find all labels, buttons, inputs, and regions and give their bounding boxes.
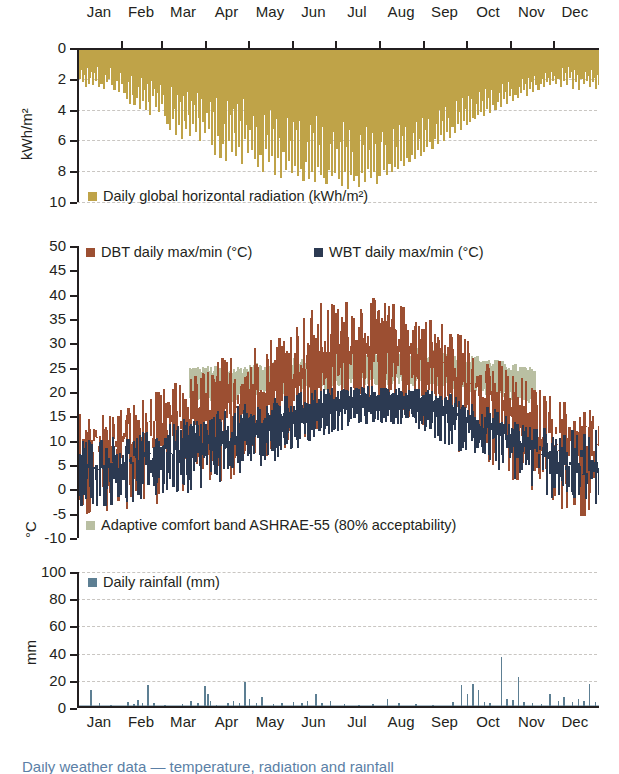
wbt-range-day [173, 424, 175, 487]
dbt-legend-label: DBT daily max/min (°C) [101, 244, 252, 260]
rainfall-bars [79, 572, 599, 706]
dbt-range-day [95, 430, 97, 437]
y-tick-label: -5 [53, 509, 66, 519]
wbt-range-day [127, 439, 129, 454]
wbt-range-day [164, 438, 166, 449]
y-tick-label: 50 [49, 241, 66, 251]
rainfall-legend-label: Daily rainfall (mm) [103, 574, 220, 590]
y-tick-mark [70, 79, 77, 81]
wbt-range-day [147, 441, 149, 485]
y-tick-label: 40 [49, 649, 66, 659]
y-tick-label: -10 [44, 533, 66, 543]
y-tick-label: 80 [49, 594, 66, 604]
y-tick-label: 35 [49, 314, 66, 324]
wbt-range-day [107, 458, 109, 467]
month-tick-aug [379, 41, 381, 48]
y-tick-mark [70, 654, 77, 656]
month-tick-nov [510, 41, 512, 48]
y-tick-label: 20 [49, 387, 66, 397]
y-tick-mark [70, 319, 77, 321]
y-tick-mark [70, 270, 77, 272]
y-tick-label: 15 [49, 411, 66, 421]
wbt-range-day [598, 468, 599, 494]
wbt-range-day [496, 412, 498, 435]
y-tick-label: 0 [58, 484, 66, 494]
y-tick-label: 5 [58, 460, 66, 470]
y-tick-mark [70, 626, 77, 628]
rainfall-legend-swatch [88, 578, 97, 587]
rainfall-legend: Daily rainfall (mm) [88, 574, 220, 590]
wbt-range-day [580, 450, 582, 458]
radiation-legend-label: Daily global horizontal radiation (kWh/m… [103, 188, 368, 204]
radiation-y-axis-label: kWh/m² [18, 108, 35, 160]
y-tick-label: 40 [49, 290, 66, 300]
y-tick-label: 10 [49, 197, 66, 207]
y-tick-label: 25 [49, 363, 66, 373]
y-tick-mark [70, 171, 77, 173]
temperature-chart: °C 50454035302520151050-5-10 DBT daily m… [0, 228, 619, 558]
y-tick-mark [70, 416, 77, 418]
rainfall-bar [589, 684, 590, 706]
wbt-range-day [573, 448, 575, 499]
month-tick-jul [335, 41, 337, 48]
rainfall-month-axis: JanFebMarAprMayJunJulAugSepOctNovDec [0, 712, 619, 734]
dbt-range-day [364, 333, 366, 379]
y-tick-label: 0 [58, 43, 66, 53]
y-tick-mark [70, 343, 77, 345]
dbt-range-day [592, 416, 594, 429]
wbt-range-day [579, 466, 581, 486]
y-tick-mark [70, 441, 77, 443]
dbt-range-day [400, 306, 402, 375]
dbt-range-day [555, 427, 557, 434]
radiation-bar [598, 50, 599, 85]
wbt-range-day [536, 429, 538, 452]
y-tick-label: 8 [58, 166, 66, 176]
y-tick-mark [70, 514, 77, 516]
wbt-range-day [563, 435, 565, 465]
temperature-legend-comfort: Adaptive comfort band ASHRAE-55 (80% acc… [86, 517, 456, 533]
wbt-range-day [92, 469, 94, 504]
wbt-range-day [546, 443, 548, 496]
y-tick-mark [70, 489, 77, 491]
y-tick-label: 45 [49, 265, 66, 275]
wbt-range-day [588, 437, 590, 471]
y-tick-mark [70, 465, 77, 467]
y-tick-label: 100 [41, 567, 66, 577]
y-tick-mark [70, 202, 77, 204]
radiation-legend: Daily global horizontal radiation (kWh/m… [88, 188, 368, 204]
month-tick-sep [423, 41, 425, 48]
rainfall-bar [501, 657, 502, 706]
wbt-range-day [489, 413, 491, 460]
y-tick-label: 10 [49, 436, 66, 446]
month-tick-feb [121, 41, 123, 48]
wbt-range-day [149, 453, 151, 454]
wbt-range-day [110, 463, 112, 505]
wbt-range-day [583, 434, 585, 475]
wbt-range-day [586, 473, 588, 484]
wbt-range-day [163, 445, 165, 484]
wbt-range-day [539, 446, 541, 450]
wbt-range-day [96, 465, 98, 507]
radiation-legend-swatch [88, 192, 97, 201]
y-tick-mark [70, 572, 77, 574]
rainfall-bar [147, 685, 148, 706]
y-tick-label: 30 [49, 338, 66, 348]
radiation-bars [79, 50, 599, 202]
wbt-range-day [498, 435, 500, 469]
rainfall-bar [204, 686, 205, 706]
temperature-y-axis-label: °C [22, 521, 39, 538]
y-tick-mark [70, 599, 77, 601]
month-tick-oct [466, 41, 468, 48]
wbt-range-day [514, 422, 516, 480]
dbt-range-day [418, 326, 420, 394]
month-label-dec: Dec [549, 2, 601, 22]
y-tick-mark [70, 368, 77, 370]
wbt-range-day [486, 407, 488, 427]
rainfall-bar [244, 682, 245, 706]
temperature-plot-area [77, 246, 599, 538]
wbt-range-day [200, 424, 202, 488]
y-tick-mark [70, 681, 77, 683]
comfort-band-legend-label: Adaptive comfort band ASHRAE-55 (80% acc… [101, 517, 456, 533]
month-tick-dec [553, 41, 555, 48]
wbt-legend-label: WBT daily max/min (°C) [329, 244, 484, 260]
